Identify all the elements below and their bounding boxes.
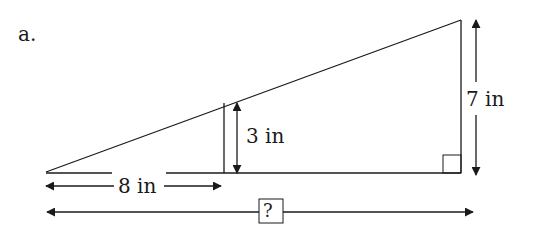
label-8in: 8 in	[117, 176, 157, 196]
label-3in: 3 in	[246, 126, 284, 146]
right-angle-icon	[443, 155, 461, 173]
label-7in: 7 in	[464, 89, 506, 109]
hypotenuse	[46, 20, 461, 172]
label-unknown: ?	[263, 201, 273, 221]
large-triangle	[46, 20, 461, 173]
